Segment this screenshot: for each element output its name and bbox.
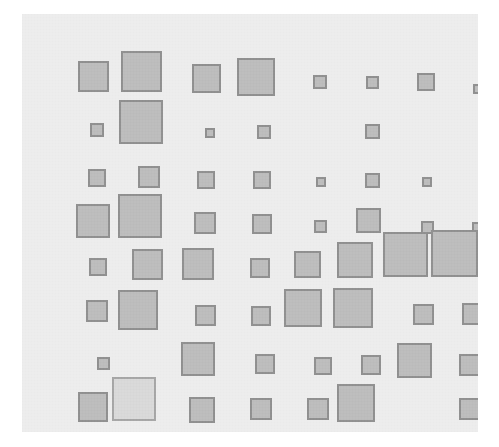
matrix-cell-r8-c1[interactable] bbox=[78, 392, 108, 422]
matrix-cell-r5-c2[interactable] bbox=[132, 249, 163, 280]
matrix-cell-r4-c5[interactable] bbox=[314, 220, 327, 233]
matrix-cell-r6-c2[interactable] bbox=[118, 290, 158, 330]
matrix-cell-r2-c3[interactable] bbox=[205, 128, 215, 138]
matrix-cell-r6-c3[interactable] bbox=[195, 305, 216, 326]
matrix-cell-r4-c3[interactable] bbox=[194, 212, 216, 234]
matrix-cell-r7-c4[interactable] bbox=[255, 354, 275, 374]
matrix-cell-r6-c8[interactable] bbox=[462, 303, 478, 325]
matrix-cell-r1-c2[interactable] bbox=[121, 51, 162, 92]
matrix-cell-r8-c3[interactable] bbox=[189, 397, 215, 423]
matrix-cell-r3-c7[interactable] bbox=[422, 177, 432, 187]
matrix-cell-r7-c8[interactable] bbox=[459, 354, 478, 376]
matrix-cell-r5-c9[interactable] bbox=[431, 230, 478, 277]
matrix-cell-r8-c6[interactable] bbox=[337, 384, 375, 422]
matrix-cell-r1-c1[interactable] bbox=[78, 61, 109, 92]
matrix-cell-r6-c6[interactable] bbox=[333, 288, 373, 328]
matrix-cell-r7-c3[interactable] bbox=[181, 342, 215, 376]
matrix-cell-r4-c1[interactable] bbox=[76, 204, 110, 238]
matrix-cell-r2-c1[interactable] bbox=[90, 123, 104, 137]
matrix-cell-r2-c2[interactable] bbox=[119, 100, 163, 144]
matrix-cell-r3-c4[interactable] bbox=[253, 171, 271, 189]
matrix-cell-r5-c3[interactable] bbox=[182, 248, 214, 280]
matrix-cell-r7-c1[interactable] bbox=[97, 357, 110, 370]
matrix-cell-r5-c8[interactable] bbox=[383, 232, 428, 277]
matrix-cell-r1-c8[interactable] bbox=[473, 84, 478, 94]
matrix-cell-r6-c7[interactable] bbox=[413, 304, 434, 325]
matrix-cell-r8-c8[interactable] bbox=[459, 398, 478, 420]
matrix-cell-r6-c5[interactable] bbox=[284, 289, 322, 327]
matrix-cell-r8-c4[interactable] bbox=[250, 398, 272, 420]
matrix-cell-r5-c5[interactable] bbox=[250, 258, 270, 278]
matrix-cell-r8-c2[interactable] bbox=[112, 377, 156, 421]
matrix-cell-r4-c6[interactable] bbox=[356, 208, 381, 233]
matrix-cell-r1-c7[interactable] bbox=[417, 73, 435, 91]
matrix-cell-r4-c4[interactable] bbox=[252, 214, 272, 234]
matrix-cell-r1-c4[interactable] bbox=[237, 58, 275, 96]
matrix-cell-r1-c3[interactable] bbox=[192, 64, 221, 93]
matrix-cell-r3-c2[interactable] bbox=[138, 166, 160, 188]
matrix-cell-r3-c6[interactable] bbox=[365, 173, 380, 188]
matrix-cell-r1-c5[interactable] bbox=[313, 75, 327, 89]
matrix-cell-r2-c4[interactable] bbox=[257, 125, 271, 139]
matrix-cell-r7-c5[interactable] bbox=[314, 357, 332, 375]
matrix-cell-r3-c5[interactable] bbox=[316, 177, 326, 187]
matrix-cell-r7-c7[interactable] bbox=[397, 343, 432, 378]
matrix-cell-r4-c2[interactable] bbox=[118, 194, 162, 238]
matrix-cell-r5-c1[interactable] bbox=[89, 258, 107, 276]
matrix-cell-r7-c6[interactable] bbox=[361, 355, 381, 375]
matrix-cell-r8-c5[interactable] bbox=[307, 398, 329, 420]
matrix-cell-r5-c7[interactable] bbox=[337, 242, 373, 278]
matrix-cell-r3-c3[interactable] bbox=[197, 171, 215, 189]
matrix-cell-r2-c6[interactable] bbox=[365, 124, 380, 139]
matrix-chart bbox=[0, 0, 499, 447]
matrix-cell-r3-c1[interactable] bbox=[88, 169, 106, 187]
matrix-cell-r6-c4[interactable] bbox=[251, 306, 271, 326]
matrix-cell-r6-c1[interactable] bbox=[86, 300, 108, 322]
matrix-cell-r5-c6[interactable] bbox=[294, 251, 321, 278]
plot-area bbox=[22, 14, 478, 432]
matrix-cell-r1-c6[interactable] bbox=[366, 76, 379, 89]
